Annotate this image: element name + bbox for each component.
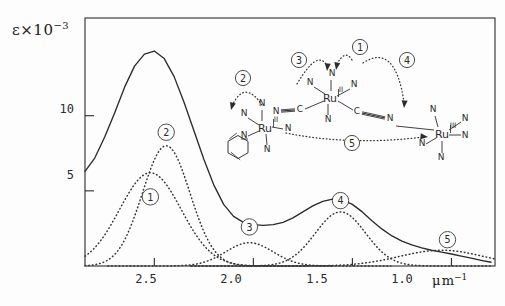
plot-frame (85, 18, 495, 266)
transition-label-5: 5 (344, 135, 359, 150)
curve-band-1 (85, 173, 333, 266)
ru-left-n-right: N (285, 123, 292, 133)
curve-band-3 (108, 243, 391, 266)
ru-left-oxidation-state: II (274, 115, 278, 124)
ru-left-n-upper-left: N (241, 108, 248, 118)
svg-text:3: 3 (296, 55, 302, 66)
ru-right-n-right: N (462, 130, 469, 140)
ru-left-symbol: Ru (258, 122, 272, 135)
ru-right: RuIII (435, 121, 456, 141)
svg-text:1: 1 (357, 42, 363, 53)
transition-arc-4 (363, 58, 404, 102)
svg-text:2: 2 (240, 73, 246, 84)
molecular-structure-inset: RuIINNNNNRuIINNNNCNCNRuIIINNNNN12345 (228, 39, 468, 162)
curve-label-5: 5 (439, 231, 455, 247)
ru-left-n-bottom: N (264, 144, 271, 154)
plot-canvas: 12345 RuIINNNNNRuIINNNNCNCNRuIIINNNNN123… (0, 0, 505, 306)
bridge-left-n: N (273, 106, 280, 116)
curve-number-labels: 12345 (142, 124, 456, 248)
ru-center-n-upper-left: N (307, 77, 314, 87)
figure-root: ε×10−3 10 5 2.5 2.0 1.5 1.0 μ m−1 12345 … (0, 0, 505, 306)
curve-total (85, 51, 491, 262)
transition-arrowhead-2 (230, 102, 236, 110)
bridge-right-n: N (387, 113, 394, 123)
transition-arrowhead-4 (402, 100, 408, 108)
curve-label-3: 3 (241, 219, 257, 235)
curve-label-2: 2 (158, 124, 174, 140)
ru-center-symbol: Ru (323, 92, 337, 105)
ru-center-n-top: N (329, 68, 336, 78)
ru-center-n-upper-right: N (351, 79, 358, 89)
ru-right-n-top: N (430, 104, 437, 114)
svg-text:4: 4 (404, 55, 410, 66)
svg-text:2: 2 (163, 127, 169, 138)
bridge-right-from-ru-center (338, 101, 353, 110)
transition-label-2: 2 (235, 70, 250, 85)
ru-left: RuII (258, 115, 278, 135)
curve-band-5 (192, 250, 495, 266)
svg-text:5: 5 (349, 138, 355, 149)
curve-band-2 (85, 146, 308, 266)
bridge-right-seg (362, 113, 385, 118)
transition-label-1: 1 (352, 39, 367, 54)
ru-right-n-left: N (419, 138, 426, 148)
curve-label-4: 4 (332, 192, 348, 208)
svg-text:5: 5 (444, 234, 450, 245)
spectrum-curves (85, 51, 495, 266)
axis-ticks (85, 116, 451, 266)
ru-center-bond-ul (314, 87, 325, 94)
bridge-right-c: C (354, 106, 360, 116)
svg-text:3: 3 (246, 222, 252, 233)
ru-center-n-bottom: N (325, 114, 332, 124)
bridge-left-to-ru-center (305, 101, 324, 109)
ru-right-bond-left (426, 138, 436, 144)
curve-label-1: 1 (142, 189, 158, 205)
ru-right-symbol: Ru (435, 128, 449, 141)
bridge-left-c: C (297, 104, 303, 114)
transition-label-3: 3 (291, 52, 306, 67)
bridge-right-n-to-ru-right (396, 126, 434, 130)
ru-right-n-bottom: N (438, 152, 445, 162)
ru-left-n-top: N (259, 98, 266, 108)
svg-text:4: 4 (337, 195, 343, 206)
ru-right-bond-top (435, 116, 438, 127)
bridge-left-seg (281, 110, 295, 111)
transition-label-4: 4 (399, 52, 414, 67)
svg-text:1: 1 (147, 192, 153, 203)
ru-right-n-upper-right: N (462, 113, 469, 123)
ru-left-bond-right (272, 127, 283, 129)
